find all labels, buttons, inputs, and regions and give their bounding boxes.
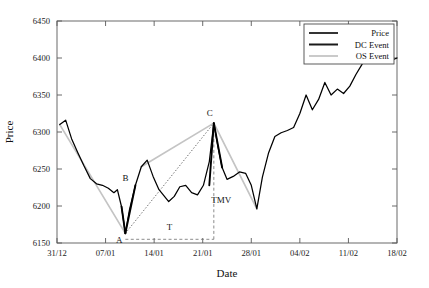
legend-label-dc-event: DC Event: [355, 40, 390, 50]
x-tick-label: 21/01: [193, 248, 213, 258]
y-tick-label: 6200: [33, 201, 50, 211]
x-tick-label: 07/01: [96, 248, 116, 258]
annotation-C: C: [207, 108, 213, 118]
x-tick-label: 04/02: [290, 248, 310, 258]
annotation-T: T: [167, 222, 173, 232]
x-tick-label: 11/02: [339, 248, 358, 258]
x-tick-label: 18/02: [387, 248, 407, 258]
legend-label-price: Price: [371, 28, 389, 38]
y-tick-label: 6300: [33, 127, 50, 137]
annotation-A: A: [116, 235, 123, 245]
y-axis-title: Price: [3, 121, 15, 144]
y-tick-label: 6450: [33, 16, 50, 26]
chart-figure: 6150620062506300635064006450 31/1207/011…: [0, 0, 429, 288]
y-tick-label: 6350: [33, 90, 50, 100]
price-chart-svg: 6150620062506300635064006450 31/1207/011…: [0, 0, 429, 288]
x-axis-title: Date: [217, 267, 238, 279]
legend-label-os-event: OS Event: [356, 51, 390, 61]
annotation-B: B: [122, 173, 128, 183]
y-tick-label: 6250: [33, 164, 50, 174]
y-tick-label: 6150: [33, 238, 50, 248]
annotation-TMV: TMV: [211, 195, 232, 205]
y-axis-tick-labels: 6150620062506300635064006450: [33, 16, 50, 248]
chart-legend[interactable]: PriceDC EventOS Event: [304, 24, 394, 64]
x-tick-label: 31/12: [47, 248, 67, 258]
x-tick-label: 28/01: [241, 248, 261, 258]
y-tick-label: 6400: [33, 53, 50, 63]
x-tick-label: 14/01: [144, 248, 164, 258]
x-axis-tick-labels: 31/1207/0114/0121/0128/0104/0211/0218/02: [47, 248, 407, 258]
